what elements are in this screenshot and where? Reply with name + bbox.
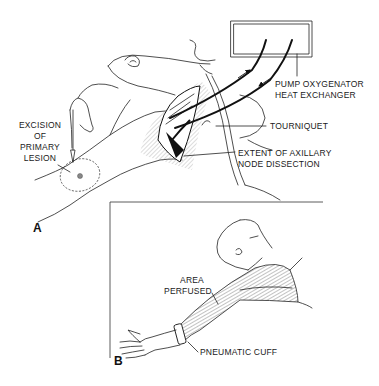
panel-label-b: B — [114, 354, 123, 368]
label-extent-axillary: EXTENT OF AXILLARY — [238, 148, 332, 158]
panel-b: AREA PERFUSED PNEUMATIC CUFF B — [110, 202, 323, 368]
pump-oxygenator-box — [231, 21, 312, 57]
patient-torso — [202, 74, 280, 200]
label-area: AREA — [180, 275, 204, 285]
label-primary: PRIMARY — [20, 142, 60, 152]
label-pneumatic-cuff: PNEUMATIC CUFF — [200, 347, 277, 357]
surgeon-hand-scalpel — [70, 84, 118, 162]
patient-b-hand — [120, 330, 180, 358]
label-excision: EXCISION — [19, 120, 61, 130]
label-node-dissection: NODE DISSECTION — [238, 159, 320, 169]
label-tourniquet: TOURNIQUET — [270, 121, 328, 131]
label-lesion: LESION — [24, 153, 56, 163]
label-of: OF — [34, 131, 46, 141]
label-perfused: PERFUSED — [164, 286, 212, 296]
label-pump-oxygenator: PUMP OXYGENATOR — [275, 79, 364, 89]
leader-cuff — [188, 342, 198, 352]
patient-b-head — [217, 220, 272, 270]
panel-a: PUMP OXYGENATOR HEAT EXCHANGER TOURNIQUE… — [19, 21, 364, 235]
label-heat-exchanger: HEAT EXCHANGER — [275, 90, 356, 100]
primary-lesion — [57, 154, 104, 195]
surgical-diagram: PUMP OXYGENATOR HEAT EXCHANGER TOURNIQUE… — [0, 0, 379, 386]
panel-label-a: A — [33, 221, 42, 235]
